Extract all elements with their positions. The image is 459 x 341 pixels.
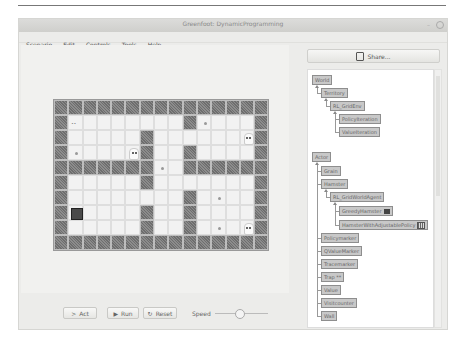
- grid-cell[interactable]: [168, 160, 182, 175]
- grid-cell[interactable]: [154, 190, 168, 205]
- wall-cell[interactable]: [240, 160, 254, 175]
- grid-cell[interactable]: [111, 115, 125, 130]
- speed-slider-knob[interactable]: [235, 309, 245, 319]
- grid-cell[interactable]: [83, 205, 97, 220]
- grid-cell[interactable]: [154, 115, 168, 130]
- grid-cell[interactable]: [168, 145, 182, 160]
- wall-cell[interactable]: [140, 100, 154, 115]
- wall-cell[interactable]: [183, 115, 197, 130]
- grid-cell[interactable]: [168, 190, 182, 205]
- grain-icon[interactable]: [218, 197, 221, 200]
- class-world[interactable]: World: [312, 75, 332, 85]
- grid-cell[interactable]: [240, 130, 254, 145]
- wall-cell[interactable]: [211, 100, 225, 115]
- wall-cell[interactable]: [140, 235, 154, 250]
- grid-cell[interactable]: [226, 205, 240, 220]
- ghost-icon[interactable]: [244, 133, 254, 145]
- grid-cell[interactable]: [226, 190, 240, 205]
- wall-cell[interactable]: [125, 160, 139, 175]
- grid-cell[interactable]: [111, 205, 125, 220]
- grid-cell[interactable]: [111, 190, 125, 205]
- grid-cell[interactable]: [125, 115, 139, 130]
- wall-cell[interactable]: [183, 190, 197, 205]
- wall-cell[interactable]: [54, 160, 68, 175]
- wall-cell[interactable]: [97, 235, 111, 250]
- grid-cell[interactable]: [97, 145, 111, 160]
- wall-cell[interactable]: [154, 235, 168, 250]
- wall-cell[interactable]: [197, 235, 211, 250]
- wall-cell[interactable]: [111, 160, 125, 175]
- grid-cell[interactable]: [240, 205, 254, 220]
- grid-cell[interactable]: [211, 190, 225, 205]
- wall-cell[interactable]: [68, 160, 82, 175]
- scrollbar-thumb[interactable]: [436, 76, 440, 196]
- minimize-icon[interactable]: –: [427, 21, 430, 28]
- class-tracemarker[interactable]: Tracemarker: [321, 259, 358, 269]
- grid-cell[interactable]: [211, 130, 225, 145]
- grid-cell[interactable]: [154, 145, 168, 160]
- class-actor[interactable]: Actor: [312, 152, 331, 162]
- wall-cell[interactable]: [83, 235, 97, 250]
- wall-cell[interactable]: [54, 205, 68, 220]
- wall-cell[interactable]: [240, 235, 254, 250]
- grid-cell[interactable]: [197, 145, 211, 160]
- grid-cell[interactable]: [125, 205, 139, 220]
- speed-slider[interactable]: [215, 313, 268, 314]
- class-visitcounter[interactable]: Visitcounter: [321, 298, 357, 308]
- reset-button[interactable]: ↻ Reset: [143, 307, 177, 319]
- class-rl-gridenv[interactable]: RL_GridEnv: [330, 101, 365, 111]
- grid-cell[interactable]: [211, 145, 225, 160]
- grid-cell[interactable]: [240, 220, 254, 235]
- grid-cell[interactable]: [168, 175, 182, 190]
- wall-cell[interactable]: [183, 160, 197, 175]
- wall-cell[interactable]: [54, 100, 68, 115]
- grid-cell[interactable]: [197, 175, 211, 190]
- wall-cell[interactable]: [125, 235, 139, 250]
- class-greedyhamster[interactable]: GreedyHamster: [339, 206, 393, 216]
- run-button[interactable]: ▶ Run: [107, 307, 139, 319]
- grid-cell[interactable]: [183, 130, 197, 145]
- grid-cell[interactable]: [154, 160, 168, 175]
- grid-cell[interactable]: [154, 175, 168, 190]
- wall-cell[interactable]: [140, 145, 154, 160]
- wall-cell[interactable]: [54, 190, 68, 205]
- wall-cell[interactable]: [140, 175, 154, 190]
- grid-cell[interactable]: [97, 205, 111, 220]
- grid-cell[interactable]: [226, 115, 240, 130]
- grid-cell[interactable]: [68, 205, 82, 220]
- wall-cell[interactable]: [254, 100, 268, 115]
- wall-cell[interactable]: [68, 235, 82, 250]
- grid-cell[interactable]: [211, 220, 225, 235]
- grid-cell[interactable]: [154, 205, 168, 220]
- wall-cell[interactable]: [254, 175, 268, 190]
- grid-cell[interactable]: [125, 130, 139, 145]
- grid-cell[interactable]: [197, 130, 211, 145]
- grain-icon[interactable]: [204, 122, 207, 125]
- grid-cell[interactable]: [97, 190, 111, 205]
- grid-cell[interactable]: [97, 130, 111, 145]
- wall-cell[interactable]: [226, 100, 240, 115]
- grid-cell[interactable]: [154, 130, 168, 145]
- grid-cell[interactable]: [97, 175, 111, 190]
- grid-cell[interactable]: [240, 145, 254, 160]
- wall-cell[interactable]: [111, 235, 125, 250]
- grid-cell[interactable]: [240, 175, 254, 190]
- wall-cell[interactable]: [183, 235, 197, 250]
- class-panel-scrollbar[interactable]: [434, 69, 442, 328]
- wall-cell[interactable]: [183, 205, 197, 220]
- wall-cell[interactable]: [54, 220, 68, 235]
- wall-cell[interactable]: [197, 160, 211, 175]
- wall-cell[interactable]: [54, 175, 68, 190]
- wall-cell[interactable]: [83, 100, 97, 115]
- class-trap[interactable]: Trap **: [321, 272, 344, 282]
- grid-cell[interactable]: [111, 175, 125, 190]
- wall-cell[interactable]: [140, 160, 154, 175]
- grid-world[interactable]: ••: [53, 99, 269, 251]
- wall-cell[interactable]: [211, 160, 225, 175]
- grain-icon[interactable]: [218, 227, 221, 230]
- grid-cell[interactable]: [183, 175, 197, 190]
- grid-cell[interactable]: [197, 205, 211, 220]
- grain-icon[interactable]: [75, 152, 78, 155]
- grid-cell[interactable]: [97, 115, 111, 130]
- wall-cell[interactable]: [197, 100, 211, 115]
